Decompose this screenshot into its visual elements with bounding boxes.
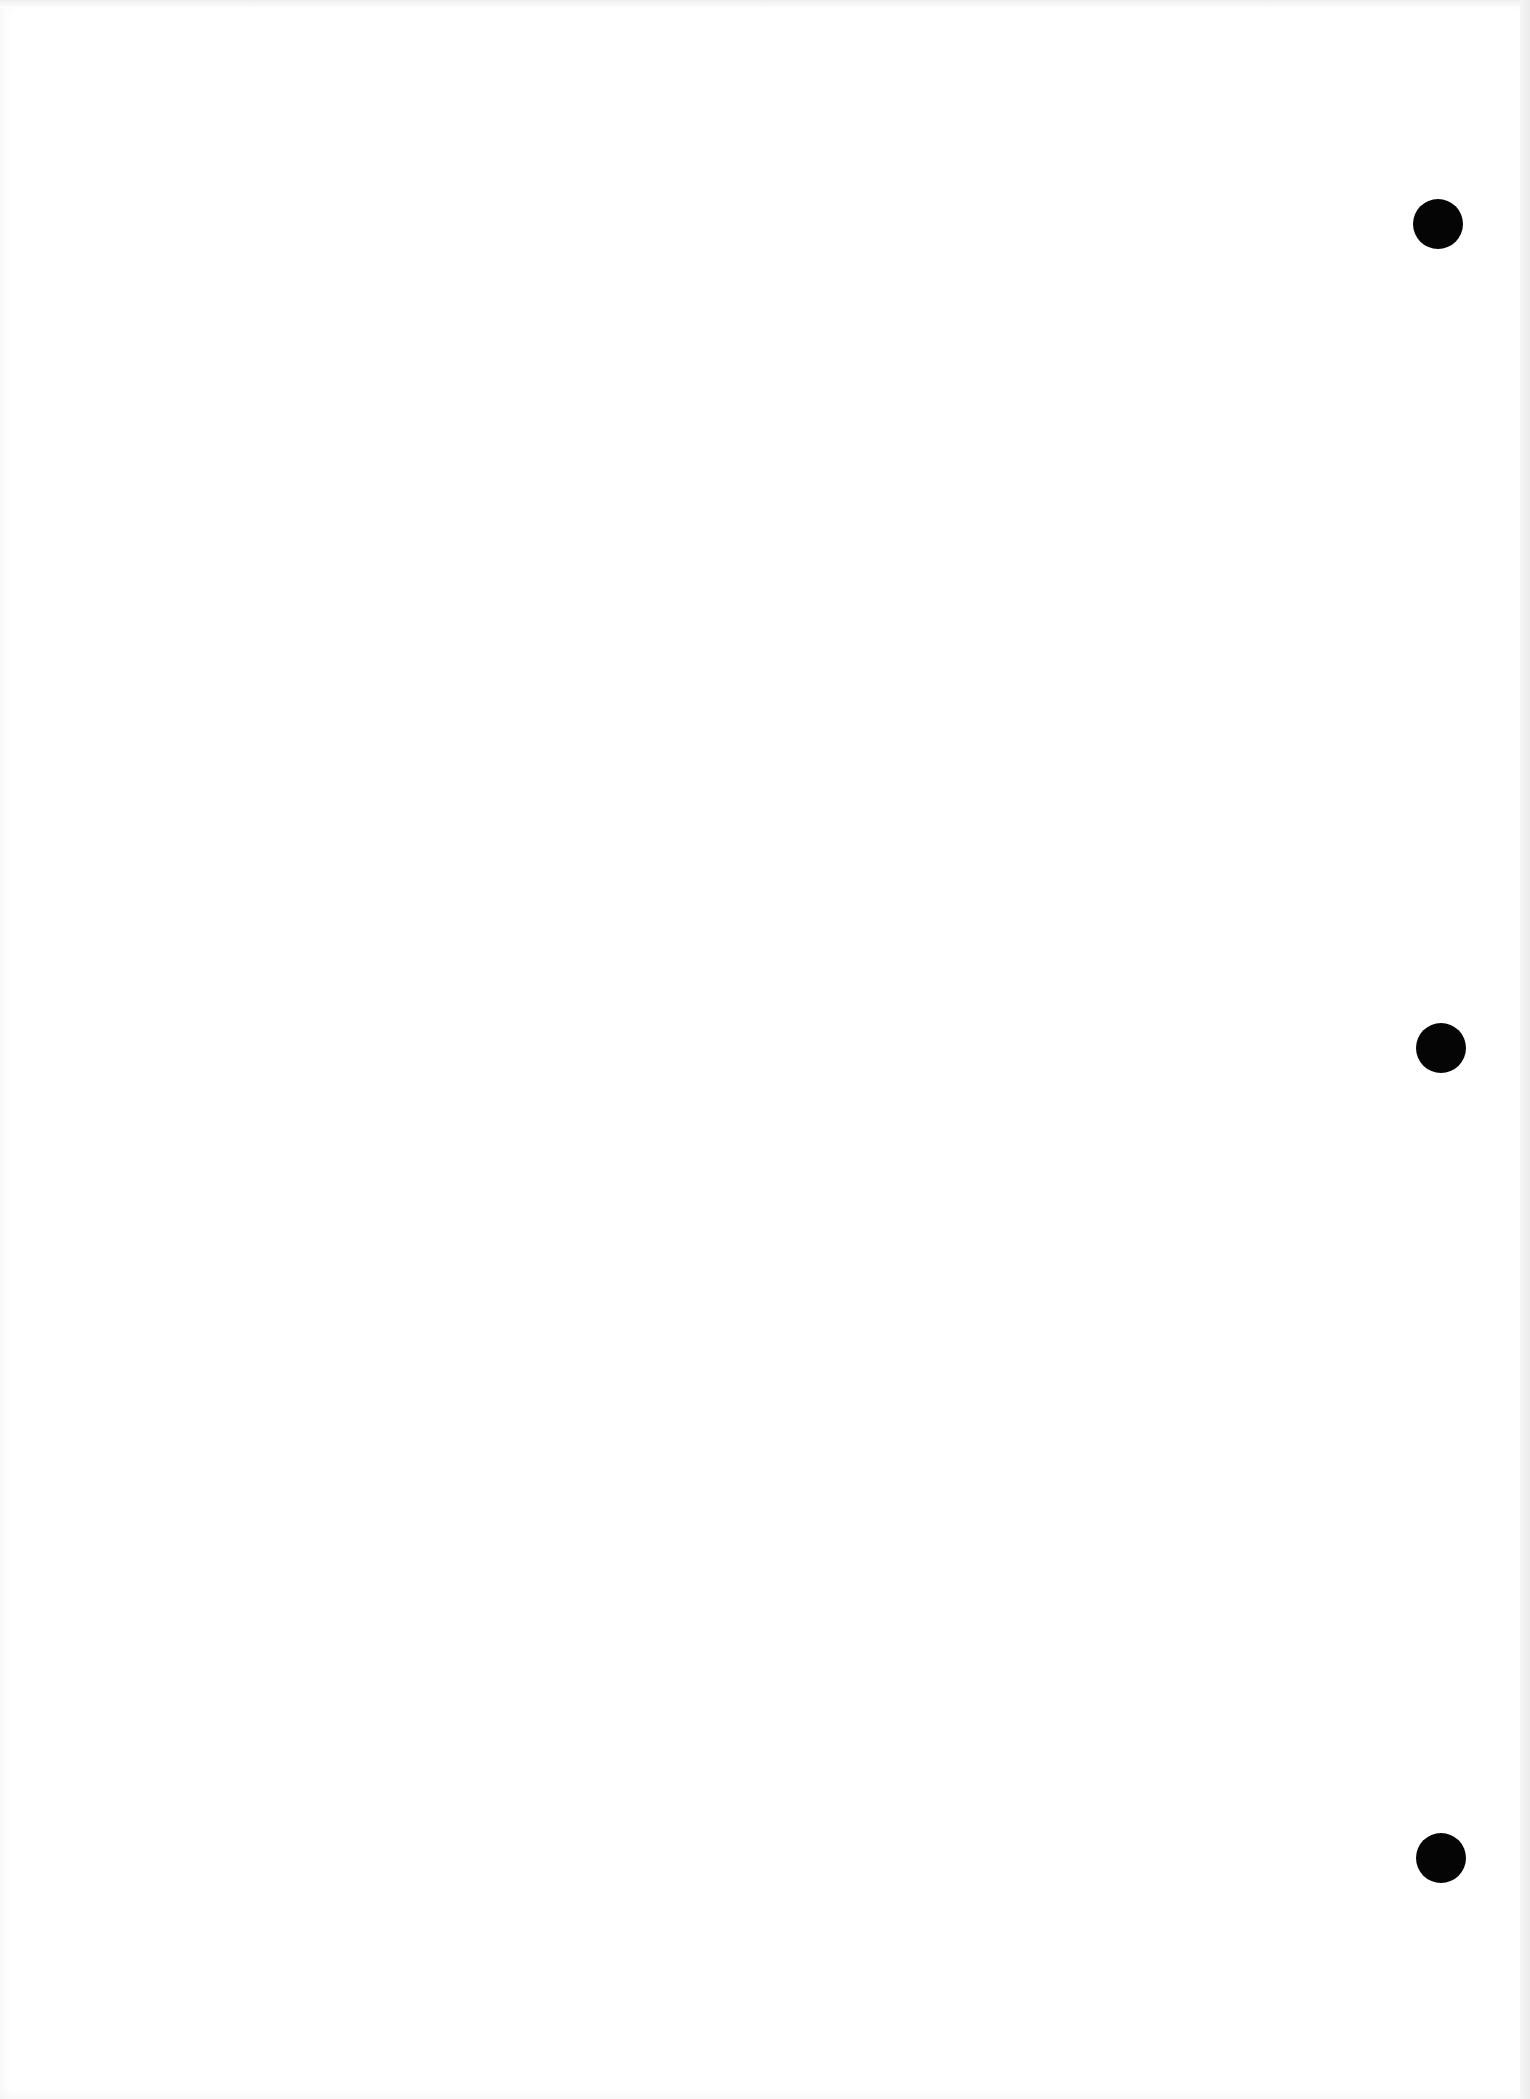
page-right-edge <box>1520 0 1530 2099</box>
page-top-edge <box>0 0 1530 8</box>
punch-hole-middle <box>1416 1023 1466 1073</box>
punch-hole-bottom <box>1416 1833 1466 1883</box>
punch-hole-top <box>1413 199 1463 249</box>
blank-page <box>0 0 1530 2099</box>
